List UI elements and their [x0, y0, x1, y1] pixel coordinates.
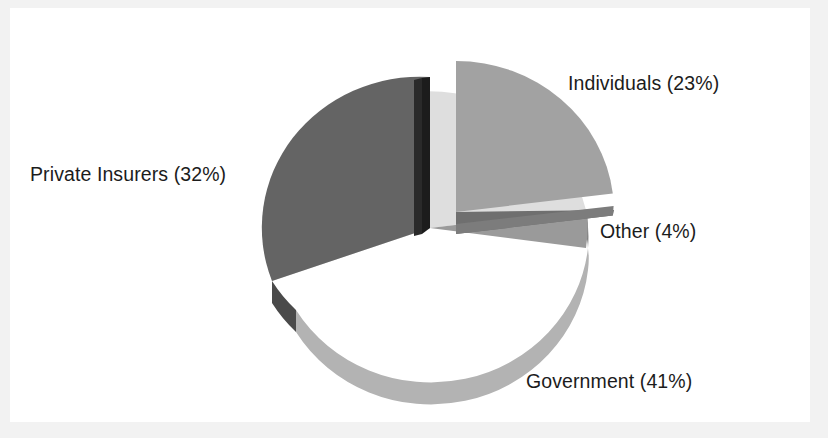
pie-label-private-insurers: Private Insurers (32%) — [30, 163, 226, 186]
pie-chart-graphic — [0, 0, 828, 438]
private-insurers-edge-wall — [422, 77, 430, 234]
pie-chart-page: Individuals (23%) Other (4%) Government … — [0, 0, 828, 438]
pie-label-individuals: Individuals (23%) — [568, 72, 719, 95]
private-insurers-slice — [262, 77, 430, 281]
pie-label-government: Government (41%) — [526, 370, 692, 393]
private-insurers-slice-side — [272, 281, 296, 332]
private-insurers-edge-wall-2 — [414, 78, 422, 236]
pie-label-other: Other (4%) — [600, 220, 696, 243]
